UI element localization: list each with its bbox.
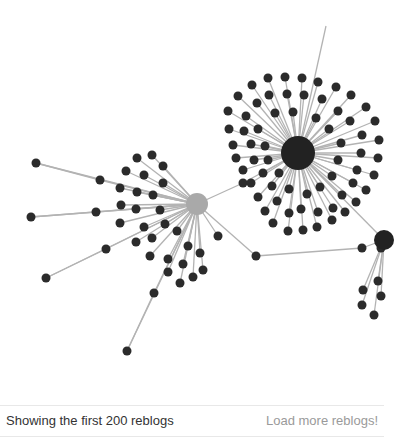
reblog-node[interactable] xyxy=(261,142,270,151)
reblog-node[interactable] xyxy=(349,179,358,188)
reblog-node[interactable] xyxy=(261,207,270,216)
reblog-node[interactable] xyxy=(265,91,274,100)
hub-node-right[interactable] xyxy=(374,230,394,250)
reblog-node[interactable] xyxy=(32,159,41,168)
reblog-node[interactable] xyxy=(149,191,158,200)
reblog-node[interactable] xyxy=(300,91,309,100)
reblog-node[interactable] xyxy=(264,156,273,165)
reblog-node[interactable] xyxy=(161,220,170,229)
reblog-node[interactable] xyxy=(173,227,182,236)
reblog-node[interactable] xyxy=(275,169,284,178)
reblog-node[interactable] xyxy=(140,223,149,232)
reblog-node[interactable] xyxy=(298,74,307,83)
reblog-node[interactable] xyxy=(248,81,257,90)
reblog-node[interactable] xyxy=(102,245,111,254)
reblog-node[interactable] xyxy=(297,205,306,214)
reblog-node[interactable] xyxy=(225,125,234,134)
reblog-node[interactable] xyxy=(132,205,141,214)
reblog-node[interactable] xyxy=(234,92,243,101)
reblog-node[interactable] xyxy=(334,107,343,116)
reblog-node[interactable] xyxy=(96,176,105,185)
reblog-node[interactable] xyxy=(242,112,251,121)
reblog-node[interactable] xyxy=(254,125,263,134)
reblog-node[interactable] xyxy=(196,249,205,258)
reblog-node[interactable] xyxy=(232,154,241,163)
reblog-node[interactable] xyxy=(284,227,293,236)
reblog-graph[interactable] xyxy=(0,0,406,395)
reblog-node[interactable] xyxy=(156,206,165,215)
graph-nodes[interactable] xyxy=(27,73,386,356)
reblog-node[interactable] xyxy=(362,103,371,112)
reblog-node[interactable] xyxy=(338,191,347,200)
reblog-node[interactable] xyxy=(375,136,384,145)
reblog-node[interactable] xyxy=(133,154,142,163)
reblog-node[interactable] xyxy=(362,186,371,195)
reblog-node[interactable] xyxy=(240,127,249,136)
reblog-node[interactable] xyxy=(27,213,36,222)
reblog-node[interactable] xyxy=(239,166,248,175)
reblog-node[interactable] xyxy=(214,232,223,241)
reblog-node[interactable] xyxy=(329,204,338,213)
reblog-node[interactable] xyxy=(229,141,238,150)
reblog-node[interactable] xyxy=(42,274,51,283)
reblog-node[interactable] xyxy=(224,107,233,116)
reblog-node[interactable] xyxy=(341,208,350,217)
reblog-node[interactable] xyxy=(334,156,343,165)
reblog-node[interactable] xyxy=(253,99,262,108)
reblog-node[interactable] xyxy=(359,286,368,295)
reblog-node[interactable] xyxy=(268,182,277,191)
reblog-node[interactable] xyxy=(189,273,198,282)
reblog-node[interactable] xyxy=(332,83,341,92)
reblog-node[interactable] xyxy=(239,179,248,188)
reblog-node[interactable] xyxy=(132,238,141,247)
reblog-node[interactable] xyxy=(328,172,337,181)
reblog-node[interactable] xyxy=(146,252,155,261)
reblog-node[interactable] xyxy=(283,90,292,99)
reblog-node[interactable] xyxy=(328,216,337,225)
reblog-node[interactable] xyxy=(269,219,278,228)
reblog-node[interactable] xyxy=(164,255,173,264)
reblog-node[interactable] xyxy=(374,277,383,286)
reblog-node[interactable] xyxy=(150,289,159,298)
reblog-node[interactable] xyxy=(318,95,327,104)
reblog-node[interactable] xyxy=(285,209,294,218)
reblog-node[interactable] xyxy=(159,162,168,171)
reblog-node[interactable] xyxy=(184,242,193,251)
reblog-node[interactable] xyxy=(176,279,185,288)
reblog-node[interactable] xyxy=(271,109,280,118)
reblog-node[interactable] xyxy=(358,244,367,253)
reblog-node[interactable] xyxy=(116,219,125,228)
reblog-node[interactable] xyxy=(250,156,259,165)
reblog-node[interactable] xyxy=(273,197,282,206)
reblog-node[interactable] xyxy=(357,149,366,158)
hub-node-main[interactable] xyxy=(281,136,315,170)
reblog-node[interactable] xyxy=(347,91,356,100)
hub-node-origin[interactable] xyxy=(186,193,208,215)
reblog-node[interactable] xyxy=(281,73,290,82)
reblog-node[interactable] xyxy=(116,184,125,193)
reblog-node[interactable] xyxy=(133,188,142,197)
reblog-node[interactable] xyxy=(247,179,256,188)
reblog-node[interactable] xyxy=(148,151,157,160)
reblog-node[interactable] xyxy=(179,260,188,269)
reblog-node[interactable] xyxy=(346,117,355,126)
reblog-node[interactable] xyxy=(252,252,261,261)
reblog-node[interactable] xyxy=(289,108,298,117)
reblog-node[interactable] xyxy=(122,167,131,176)
reblog-node[interactable] xyxy=(148,234,157,243)
reblog-node[interactable] xyxy=(123,347,132,356)
reblog-node[interactable] xyxy=(337,139,346,148)
reblog-node[interactable] xyxy=(264,74,273,83)
reblog-node[interactable] xyxy=(358,131,367,140)
reblog-node[interactable] xyxy=(259,169,268,178)
reblog-node[interactable] xyxy=(140,171,149,180)
reblog-node[interactable] xyxy=(159,179,168,188)
reblog-node[interactable] xyxy=(285,185,294,194)
reblog-node[interactable] xyxy=(117,201,126,210)
reblog-node[interactable] xyxy=(313,223,322,232)
reblog-node[interactable] xyxy=(358,301,367,310)
reblog-node[interactable] xyxy=(92,208,101,217)
reblog-node[interactable] xyxy=(303,190,312,199)
reblog-node[interactable] xyxy=(164,268,173,277)
reblog-node[interactable] xyxy=(299,226,308,235)
